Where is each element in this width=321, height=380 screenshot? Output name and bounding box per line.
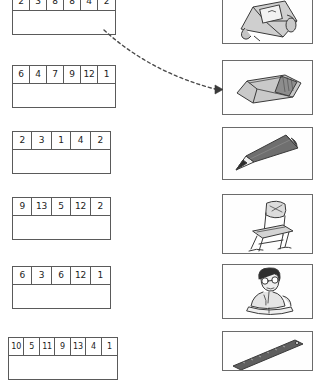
number-strip-row-1[interactable]: 2 3 8 8 4 2	[12, 0, 116, 35]
number-cell: 6	[52, 267, 71, 284]
number-strip-row-6[interactable]: 10 5 11 9 13 4 1	[8, 337, 118, 380]
picture-frame-chair[interactable]	[222, 194, 313, 254]
number-cell: 12	[71, 198, 90, 215]
number-cell: 13	[32, 198, 51, 215]
number-cell: 4	[71, 132, 90, 149]
pencil-icon	[223, 128, 313, 180]
number-cell: 5	[24, 338, 39, 355]
picture-frame-pencil[interactable]	[222, 127, 313, 180]
picture-frame-ruler[interactable]	[222, 331, 313, 371]
number-cell: 6	[13, 66, 30, 83]
number-cell: 3	[30, 0, 47, 10]
number-cell: 9	[55, 338, 70, 355]
number-cell: 8	[47, 0, 64, 10]
number-cell: 2	[13, 132, 32, 149]
number-cell: 4	[30, 66, 47, 83]
number-strip-row-3[interactable]: 2 3 1 4 2	[12, 131, 111, 174]
connector-dashed-line	[104, 30, 215, 89]
number-strip-row-5[interactable]: 6 3 6 12 1	[12, 266, 111, 309]
number-cell: 11	[40, 338, 55, 355]
number-strip-cells: 2 3 8 8 4 2	[12, 0, 116, 10]
picture-frame-backpack[interactable]	[222, 0, 313, 44]
number-cell: 7	[47, 66, 64, 83]
number-strip-cells: 6 4 7 9 12 1	[12, 65, 116, 83]
pupil-reading-icon	[223, 265, 313, 319]
number-cell: 9	[13, 198, 32, 215]
number-cell: 2	[13, 0, 30, 10]
number-cell: 3	[32, 132, 51, 149]
answer-box-row-6[interactable]	[8, 355, 118, 380]
number-strip-row-4[interactable]: 9 13 5 12 2	[12, 197, 111, 240]
number-cell: 4	[81, 0, 98, 10]
number-cell: 13	[71, 338, 86, 355]
number-strip-cells: 10 5 11 9 13 4 1	[8, 337, 118, 355]
number-cell: 12	[71, 267, 90, 284]
number-strip-cells: 2 3 1 4 2	[12, 131, 111, 149]
answer-box-row-3[interactable]	[12, 149, 111, 174]
backpack-icon	[223, 0, 313, 44]
answer-box-row-4[interactable]	[12, 215, 111, 240]
number-cell: 2	[91, 132, 110, 149]
number-cell: 5	[52, 198, 71, 215]
number-cell: 2	[98, 0, 115, 10]
number-strip-row-2[interactable]: 6 4 7 9 12 1	[12, 65, 116, 108]
number-cell: 10	[9, 338, 24, 355]
number-cell: 1	[91, 267, 110, 284]
picture-frame-eraser[interactable]	[222, 60, 313, 115]
number-cell: 2	[91, 198, 110, 215]
ruler-icon	[223, 332, 313, 371]
number-cell: 1	[52, 132, 71, 149]
number-cell: 3	[32, 267, 51, 284]
eraser-icon	[223, 61, 313, 115]
number-strip-cells: 6 3 6 12 1	[12, 266, 111, 284]
picture-frame-pupil[interactable]	[222, 264, 313, 319]
number-strip-cells: 9 13 5 12 2	[12, 197, 111, 215]
number-cell: 12	[81, 66, 98, 83]
number-cell: 4	[86, 338, 101, 355]
number-cell: 6	[13, 267, 32, 284]
chair-icon	[223, 195, 313, 254]
answer-box-row-5[interactable]	[12, 284, 111, 309]
number-cell: 8	[64, 0, 81, 10]
number-cell: 9	[64, 66, 81, 83]
number-cell: 1	[98, 66, 115, 83]
answer-box-row-2[interactable]	[12, 83, 116, 108]
answer-box-row-1[interactable]	[12, 10, 116, 35]
number-cell: 1	[102, 338, 117, 355]
